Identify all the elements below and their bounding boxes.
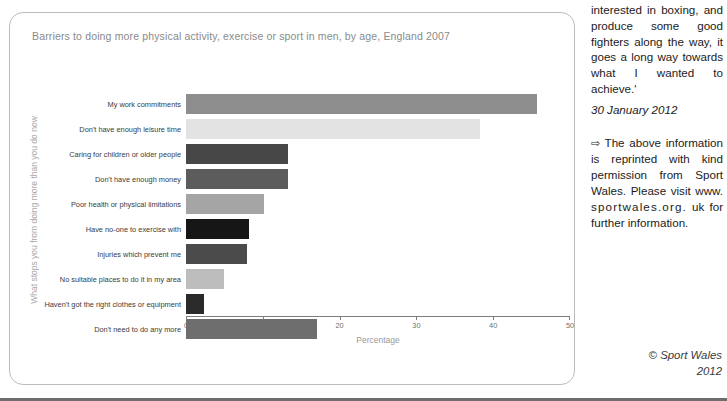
- bar-row: Don't have enough leisure time: [186, 116, 570, 141]
- bar-category-label: Don't have enough leisure time: [79, 124, 181, 133]
- bar: [186, 144, 288, 164]
- bar-category-label: Poor health or physical limitations: [71, 199, 181, 208]
- bar-row: No suitable places to do it in my area: [186, 266, 570, 291]
- x-axis-tick: [186, 316, 187, 320]
- arrow-right-icon: ⇨: [591, 137, 600, 149]
- x-axis-tick: [416, 316, 417, 320]
- bar: [186, 94, 537, 114]
- bar: [186, 194, 264, 214]
- source-note: ⇨ The above information is reprinted wit…: [591, 135, 723, 231]
- bar-row: My work commitments: [186, 91, 570, 116]
- bar-row: Poor health or physical limitations: [186, 191, 570, 216]
- copyright-block: © Sport Wales 2012: [649, 348, 722, 379]
- bar-row: Have no-one to exercise with: [186, 216, 570, 241]
- page-root: Barriers to doing more physical activity…: [0, 0, 727, 401]
- bar-category-label: Injuries which prevent me: [97, 249, 181, 258]
- bar-category-label: Don't need to do any more: [94, 324, 181, 333]
- chart-title: Barriers to doing more physical activity…: [32, 30, 450, 42]
- chart-panel: Barriers to doing more physical activity…: [0, 0, 585, 401]
- x-axis-line: 01020304050: [186, 316, 570, 317]
- copyright-line-1: © Sport Wales: [649, 348, 722, 364]
- bar: [186, 169, 288, 189]
- bar: [186, 119, 480, 139]
- bar: [186, 219, 249, 239]
- bar-row: Don't have enough money: [186, 166, 570, 191]
- bar-row: Injuries which prevent me: [186, 241, 570, 266]
- x-axis-tick-label: 20: [335, 321, 343, 330]
- chart-container: Barriers to doing more physical activity…: [9, 12, 575, 385]
- y-axis-title: What stops you from doing more than you …: [29, 100, 39, 320]
- x-axis-tick-label: 0: [184, 321, 188, 330]
- bar-category-label: Don't have enough money: [95, 174, 181, 183]
- x-axis-tick: [263, 316, 264, 320]
- copyright-line-2: 2012: [649, 364, 722, 380]
- quote-paragraph: interested in boxing, and produce some g…: [591, 2, 723, 97]
- x-axis-tick: [569, 316, 570, 320]
- x-axis-tick-label: 30: [412, 321, 420, 330]
- bar-row: Caring for children or older people: [186, 141, 570, 166]
- bar-category-label: Haven't got the right clothes or equipme…: [44, 299, 181, 308]
- bar-category-label: No suitable places to do it in my area: [60, 274, 181, 283]
- bar-row: Haven't got the right clothes or equipme…: [186, 291, 570, 316]
- x-axis-tick-label: 50: [566, 321, 574, 330]
- x-axis-tick-label: 10: [259, 321, 267, 330]
- bar-plot-area: My work commitmentsDon't have enough lei…: [186, 91, 570, 316]
- source-note-text-part1: The above information is reprinted with …: [591, 136, 723, 197]
- bar: [186, 294, 204, 314]
- x-axis-tick: [340, 316, 341, 320]
- x-axis-title: Percentage: [186, 335, 570, 345]
- bar: [186, 244, 247, 264]
- bar-category-label: My work commitments: [107, 99, 181, 108]
- bar-category-label: Have no-one to exercise with: [86, 224, 181, 233]
- bar: [186, 269, 224, 289]
- article-text-column: interested in boxing, and produce some g…: [585, 0, 727, 401]
- source-note-url: sportwales.org.: [591, 200, 687, 213]
- x-axis-tick: [493, 316, 494, 320]
- x-axis-tick-label: 40: [489, 321, 497, 330]
- article-date: 30 January 2012: [591, 102, 723, 118]
- bar-category-label: Caring for children or older people: [69, 149, 181, 158]
